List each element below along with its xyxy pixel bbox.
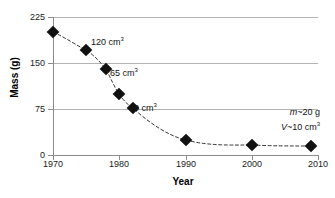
note-volume-value: ~10 cm xyxy=(287,122,317,132)
annotation-volume-30: 30 cm3 xyxy=(129,101,157,113)
gridline-225 xyxy=(53,17,318,18)
y-tick-mark-75 xyxy=(48,109,53,110)
annotation-30-exponent: 3 xyxy=(154,102,157,108)
y-axis-title: Mass (g) xyxy=(9,43,20,113)
x-tick-label-1970: 1970 xyxy=(33,160,73,169)
annotation-65-text: 65 cm xyxy=(110,68,135,78)
y-tick-label-0: 0 xyxy=(11,151,45,160)
y-tick-label-225: 225 xyxy=(11,13,45,22)
gridline-150 xyxy=(53,63,318,64)
limit-note-block: m~20 g V~10 cm3 xyxy=(215,106,320,133)
x-tick-label-1980: 1980 xyxy=(99,160,139,169)
annotation-volume-120: 120 cm3 xyxy=(91,35,124,47)
x-tick-label-1990: 1990 xyxy=(166,160,206,169)
x-axis-title: Year xyxy=(133,176,233,187)
annotation-65-exponent: 3 xyxy=(135,67,138,73)
annotation-30-text: 30 cm xyxy=(129,103,154,113)
y-tick-mark-225 xyxy=(48,17,53,18)
note-mass-value: ~20 g xyxy=(297,107,320,117)
note-volume-limit: V~10 cm3 xyxy=(215,118,320,133)
note-volume-exponent: 3 xyxy=(317,121,320,127)
chart-container: 225 150 75 0 1970 1980 1990 2000 2010 Ma… xyxy=(0,0,335,198)
annotation-volume-65: 65 cm3 xyxy=(110,66,138,78)
x-tick-label-2000: 2000 xyxy=(232,160,272,169)
x-tick-label-2010: 2010 xyxy=(298,160,335,169)
y-tick-mark-150 xyxy=(48,63,53,64)
note-mass-limit: m~20 g xyxy=(215,106,320,118)
annotation-120-text: 120 cm xyxy=(91,37,121,47)
annotation-120-exponent: 3 xyxy=(121,36,124,42)
